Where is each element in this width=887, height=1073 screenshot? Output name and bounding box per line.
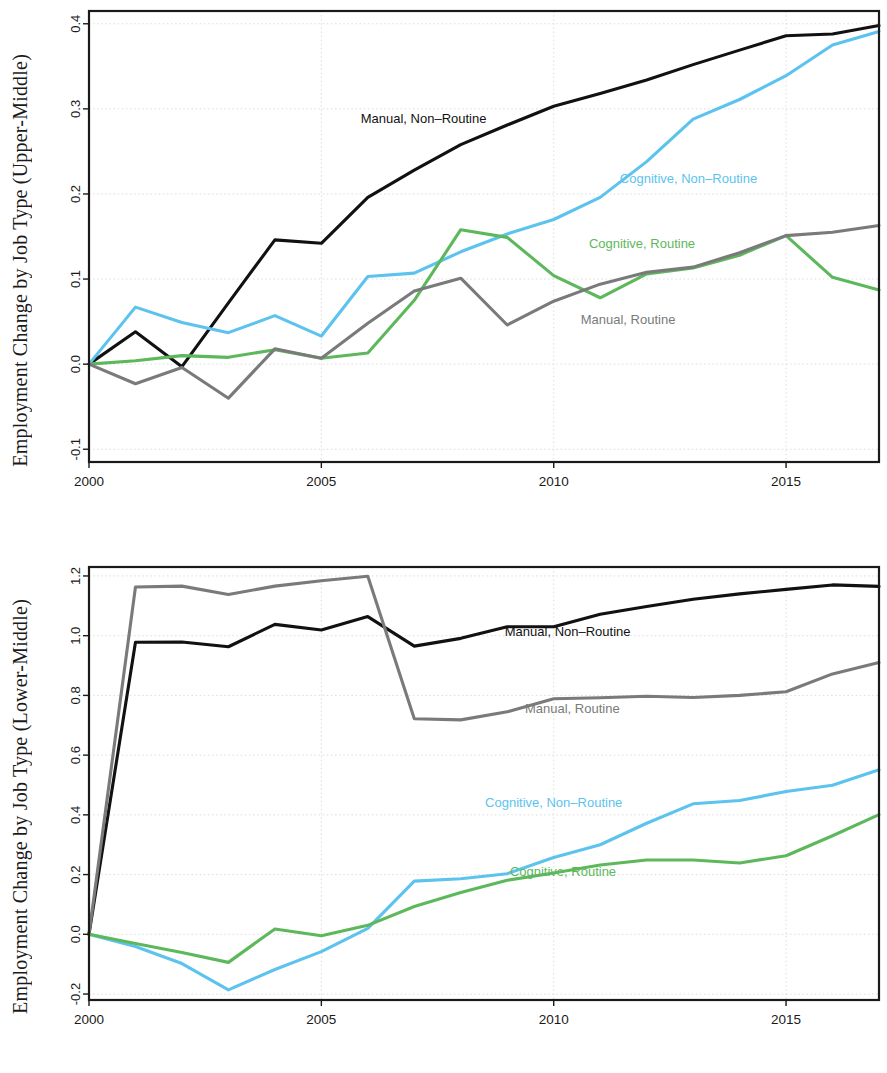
y-axis-tick-label: -0.2: [68, 983, 83, 1005]
y-axis-tick-label: 0.0: [68, 925, 83, 943]
series-line-cognitive_routine: [89, 230, 879, 364]
x-axis-tick-label: 2005: [306, 474, 336, 489]
chart-panel-lower-middle: Employment Change by Job Type (Lower-Mid…: [0, 540, 887, 1073]
y-axis-tick-label: -0.1: [68, 438, 83, 460]
y-axis-tick-label: 0.4: [68, 806, 83, 824]
series-annotation-manual_nonroutine: Manual, Non–Routine: [505, 624, 631, 639]
chart-panel-upper-middle: Employment Change by Job Type (Upper-Mid…: [0, 0, 887, 520]
series-annotation-manual_routine: Manual, Routine: [525, 701, 620, 716]
series-line-cognitive_nonroutine: [89, 31, 879, 364]
plot-frame: [89, 11, 879, 462]
y-axis-tick-label: 1.2: [68, 567, 83, 585]
x-axis-tick-label: 2010: [539, 1012, 569, 1027]
x-axis-tick-label: 2010: [539, 474, 569, 489]
series-line-manual_nonroutine: [89, 25, 879, 366]
plot-area-upper: -0.10.00.10.20.30.42000200520102015Manua…: [0, 0, 887, 520]
x-axis-tick-label: 2000: [74, 1012, 104, 1027]
y-axis-tick-label: 0.3: [68, 100, 83, 118]
y-axis-tick-label: 0.8: [68, 686, 83, 704]
series-annotation-cognitive_routine: Cognitive, Routine: [589, 236, 695, 251]
y-axis-tick-label: 0.2: [68, 185, 83, 203]
series-annotation-cognitive_routine: Cognitive, Routine: [510, 864, 616, 879]
chart-page: Employment Change by Job Type (Upper-Mid…: [0, 0, 887, 1073]
x-axis-tick-label: 2015: [771, 474, 801, 489]
line-chart-upper: -0.10.00.10.20.30.42000200520102015Manua…: [0, 0, 887, 520]
series-annotation-cognitive_nonroutine: Cognitive, Non–Routine: [620, 171, 757, 186]
x-axis-tick-label: 2000: [74, 474, 104, 489]
y-axis-tick-label: 0.1: [68, 270, 83, 288]
y-axis-tick-label: 0.6: [68, 746, 83, 764]
series-annotation-manual_nonroutine: Manual, Non–Routine: [361, 111, 487, 126]
y-axis-tick-label: 0.4: [68, 15, 83, 33]
series-annotation-manual_routine: Manual, Routine: [581, 312, 676, 327]
y-axis-tick-label: 0.2: [68, 866, 83, 884]
line-chart-lower: -0.20.00.20.40.60.81.01.2200020052010201…: [0, 540, 887, 1073]
y-axis-tick-label: 0.0: [68, 355, 83, 373]
y-axis-tick-label: 1.0: [68, 627, 83, 645]
series-line-manual_routine: [89, 225, 879, 398]
series-annotation-cognitive_nonroutine: Cognitive, Non–Routine: [485, 795, 622, 810]
series-line-manual_nonroutine: [89, 585, 879, 934]
series-line-cognitive_routine: [89, 815, 879, 963]
x-axis-tick-label: 2015: [771, 1012, 801, 1027]
plot-area-lower: -0.20.00.20.40.60.81.01.2200020052010201…: [0, 540, 887, 1073]
x-axis-tick-label: 2005: [306, 1012, 336, 1027]
gridlines: [89, 11, 879, 462]
